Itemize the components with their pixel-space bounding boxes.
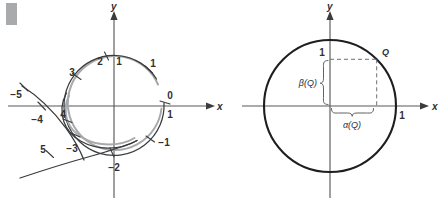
x-axis-label-left: x <box>216 101 223 112</box>
tick-label-minus-5: −5 <box>10 89 22 100</box>
x-axis-label-right: x <box>431 101 438 112</box>
brace-vertical-beta <box>320 61 328 105</box>
tick-label-1-upper-right: 1 <box>150 58 156 69</box>
spiral-winding-diagram: x y <box>0 0 224 208</box>
tick-label-0: 0 <box>167 90 173 101</box>
unit-circle-projection-diagram: x y Q β(Q) α(Q) 1 1 <box>224 0 448 208</box>
tick-label-3: 3 <box>69 67 75 78</box>
figure-root: x y <box>0 0 448 208</box>
spiral-inner-gray <box>68 56 162 150</box>
x-axis-unit-label: 1 <box>399 110 405 121</box>
tick-label-5: 5 <box>40 144 46 155</box>
tick-label-minus-2: −2 <box>108 162 120 173</box>
y-axis-label-right: y <box>326 1 333 12</box>
label-beta-of-Q: β(Q) <box>298 78 317 88</box>
label-alpha-of-Q: α(Q) <box>343 120 361 130</box>
tick-label-1-right: 1 <box>167 109 173 120</box>
tick-label-4: 4 <box>60 109 66 120</box>
x-axis-right <box>242 102 429 109</box>
y-axis-label-left: y <box>110 1 117 12</box>
tick-label-minus-4: −4 <box>31 114 43 125</box>
point-label-Q: Q <box>382 47 389 57</box>
y-axis-unit-label: 1 <box>319 47 325 58</box>
tick-label-2-top: 2 <box>97 56 103 67</box>
brace-horizontal-alpha <box>332 109 374 117</box>
tick-label-minus-3: −3 <box>66 143 78 154</box>
tick-label-minus-1: −1 <box>158 137 170 148</box>
tick-label-1-top: 1 <box>116 56 122 67</box>
tick-group-left <box>20 52 170 158</box>
